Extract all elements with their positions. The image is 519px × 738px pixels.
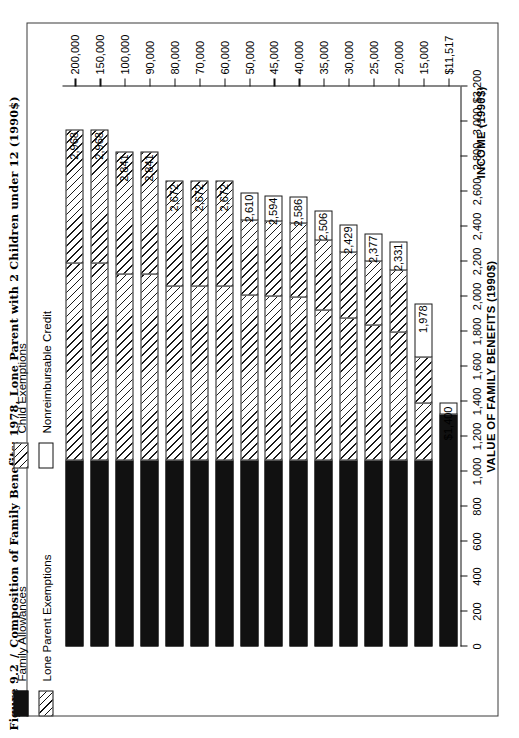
value-axis-tick bbox=[460, 295, 467, 296]
value-axis-tick bbox=[460, 470, 467, 471]
legend-swatch-lone-parent-exemptions bbox=[38, 690, 53, 716]
stacked-bar bbox=[140, 151, 158, 646]
bar-total-label: 2,672 bbox=[167, 178, 179, 211]
value-axis: 02004006008001,0001,2001,4001,6001,8002,… bbox=[460, 86, 461, 646]
legend-item: Nonreimbursable Credit bbox=[35, 228, 56, 468]
legend-swatch-family-allowances bbox=[13, 690, 28, 716]
value-axis-tick bbox=[460, 645, 467, 646]
bar-segment-lone-parent-exemptions bbox=[215, 285, 233, 460]
value-axis-tick bbox=[460, 330, 467, 331]
bar-row: 2,841 bbox=[115, 86, 133, 646]
bar-total-label: 2,672 bbox=[192, 178, 204, 211]
bar-segment-family-allowances bbox=[90, 459, 108, 646]
bar-segment-child-exemptions bbox=[414, 356, 432, 403]
legend-label: Lone Parent Exemptions bbox=[39, 554, 52, 681]
category-axis-tick bbox=[323, 78, 324, 86]
bar-segment-lone-parent-exemptions bbox=[389, 331, 407, 461]
value-axis-tick-label: 0 bbox=[470, 643, 482, 649]
stacked-bar bbox=[289, 196, 307, 646]
value-axis-tick-label: 1,000 bbox=[470, 457, 482, 485]
category-axis-tick bbox=[273, 78, 274, 86]
value-axis-tick bbox=[460, 365, 467, 366]
bar-row: 2,968 bbox=[65, 86, 83, 646]
legend-column-2: Child Exemptions Nonreimbursable Credit bbox=[10, 228, 60, 468]
bar-total-label: 2,331 bbox=[391, 238, 403, 271]
category-axis-tick bbox=[348, 78, 349, 86]
legend-item: Lone Parent Exemptions bbox=[35, 476, 56, 716]
stacked-bar bbox=[339, 224, 357, 646]
value-axis-tick bbox=[460, 85, 467, 86]
category-axis-tick bbox=[298, 78, 299, 86]
bar-total-label: 2,506 bbox=[316, 207, 328, 240]
value-axis-tick-label: 2,000 bbox=[470, 282, 482, 310]
category-axis-tick-label: 60,000 bbox=[218, 40, 230, 74]
bar-row: $1,400 bbox=[439, 86, 457, 646]
value-axis-tick bbox=[460, 575, 467, 576]
value-axis-tick bbox=[460, 225, 467, 226]
figure-page: Figure 9.2/Composition of Family Benefit… bbox=[0, 0, 519, 738]
legend-label: Family Allowances bbox=[14, 586, 27, 681]
bar-total-label: 2,672 bbox=[217, 178, 229, 211]
category-axis-tick bbox=[199, 78, 200, 86]
bar-segment-lone-parent-exemptions bbox=[339, 317, 357, 461]
category-axis-tick-label: 150,000 bbox=[93, 34, 105, 74]
bar-total-label: 2,594 bbox=[266, 192, 278, 225]
bar-segment-lone-parent-exemptions bbox=[115, 273, 133, 460]
category-axis-tick bbox=[99, 78, 100, 86]
stacked-bar bbox=[240, 192, 258, 646]
value-axis-tick bbox=[460, 260, 467, 261]
value-axis-tick-label: 1,400 bbox=[470, 387, 482, 415]
value-axis-tick-label: 2,400 bbox=[470, 212, 482, 240]
value-axis-tick-label: 1,200 bbox=[470, 422, 482, 450]
bar-total-label: 1,978 bbox=[416, 300, 428, 333]
bar-segment-family-allowances bbox=[439, 413, 457, 646]
value-axis-tick-label: 2,600 bbox=[470, 177, 482, 205]
category-axis-tick-label: 15,000 bbox=[417, 40, 429, 74]
bar-segment-child-exemptions bbox=[364, 260, 382, 325]
category-axis-tick-label: 45,000 bbox=[267, 40, 279, 74]
stacked-bar bbox=[165, 180, 183, 646]
value-axis-tick bbox=[460, 120, 467, 121]
bar-segment-family-allowances bbox=[190, 459, 208, 646]
bar-segment-family-allowances bbox=[140, 459, 158, 646]
category-axis-tick-label: 40,000 bbox=[292, 40, 304, 74]
stacked-bar bbox=[364, 233, 382, 646]
plot-area: $1,4001,9782,3312,3772,4292,5062,5862,59… bbox=[62, 86, 460, 646]
value-axis-tick bbox=[460, 155, 467, 156]
bar-segment-family-allowances bbox=[289, 459, 307, 646]
bar-segment-family-allowances bbox=[65, 459, 83, 646]
value-axis-tick-label: 200 bbox=[470, 602, 482, 620]
category-axis-tick-label: 80,000 bbox=[168, 40, 180, 74]
bar-total-label: 2,968 bbox=[67, 127, 79, 160]
stacked-bar bbox=[389, 241, 407, 646]
category-axis-tick-label: 90,000 bbox=[143, 40, 155, 74]
category-axis-tick-label: $11,517 bbox=[442, 35, 454, 74]
bar-total-label: 2,610 bbox=[242, 189, 254, 222]
bar-segment-lone-parent-exemptions bbox=[165, 285, 183, 460]
bar-segment-family-allowances bbox=[115, 459, 133, 646]
bar-row: 2,672 bbox=[190, 86, 208, 646]
bar-segment-family-allowances bbox=[314, 459, 332, 646]
value-axis-tick bbox=[460, 505, 467, 506]
bar-segment-child-exemptions bbox=[289, 222, 307, 297]
stacked-bar bbox=[264, 195, 282, 646]
bar-row: 2,429 bbox=[339, 86, 357, 646]
value-axis-tick-label: 400 bbox=[470, 567, 482, 585]
bar-total-label: 2,841 bbox=[142, 149, 154, 182]
legend-swatch-child-exemptions bbox=[13, 442, 28, 468]
rotated-figure: Figure 9.2/Composition of Family Benefit… bbox=[0, 0, 519, 738]
category-axis-tick-label: 25,000 bbox=[367, 40, 379, 74]
category-axis-tick bbox=[174, 78, 175, 86]
category-axis-tick bbox=[149, 78, 150, 86]
category-axis-tick bbox=[224, 78, 225, 86]
value-axis-tick bbox=[460, 400, 467, 401]
legend-label: Nonreimbursable Credit bbox=[39, 311, 52, 433]
bar-segment-family-allowances bbox=[165, 459, 183, 646]
value-axis-tick bbox=[460, 435, 467, 436]
stacked-bar bbox=[215, 180, 233, 646]
bar-segment-lone-parent-exemptions bbox=[289, 296, 307, 461]
legend-label: Child Exemptions bbox=[14, 343, 27, 433]
category-axis-tick-label: 200,000 bbox=[68, 34, 80, 74]
bar-row: 1,978 bbox=[414, 86, 432, 646]
bar-segment-child-exemptions bbox=[264, 220, 282, 296]
